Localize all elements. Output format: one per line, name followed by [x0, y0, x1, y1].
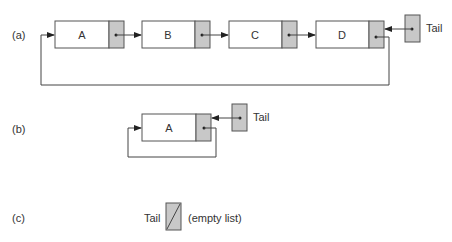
- next-pointer-field: [369, 21, 384, 48]
- node-label: B: [164, 29, 171, 41]
- tail-label: Tail: [426, 22, 443, 34]
- part-b: (b) A Tail: [12, 104, 270, 157]
- part-label-b: (b): [12, 123, 25, 135]
- node-b: B: [142, 21, 210, 48]
- part-c: (c) Tail (empty list): [12, 203, 242, 230]
- tail-label: Tail: [144, 212, 161, 224]
- tail-label: Tail: [253, 111, 270, 123]
- part-a: (a) A B C D: [12, 15, 443, 85]
- node-c: C: [229, 21, 297, 48]
- node-label: A: [78, 29, 86, 41]
- linked-list-diagram: (a) A B C D: [0, 0, 452, 242]
- node-a: A: [142, 114, 211, 141]
- node-label: A: [165, 122, 173, 134]
- node-label: D: [338, 29, 346, 41]
- node-a: A: [55, 21, 124, 48]
- part-label-c: (c): [12, 212, 25, 224]
- part-label-a: (a): [12, 29, 25, 41]
- tail-pointer: Tail: [212, 104, 270, 131]
- null-tail-box: [166, 203, 181, 230]
- node-d: D: [316, 21, 384, 48]
- tail-pointer: Tail: [385, 15, 443, 42]
- empty-list-note: (empty list): [188, 212, 242, 224]
- node-label: C: [251, 29, 259, 41]
